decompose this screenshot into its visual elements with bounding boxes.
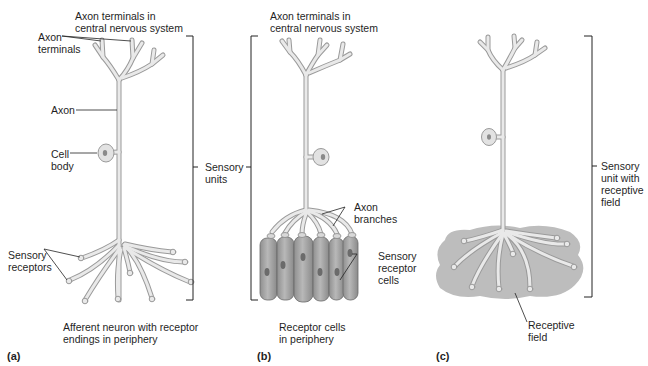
label-sensory-receptor-cells: Sensory receptor cells <box>378 250 417 286</box>
label-cns-terminals-a: Axon terminals in central nervous system <box>75 10 183 34</box>
panel-b-neuron <box>272 40 352 234</box>
sensory-unit-bracket-b <box>251 36 258 300</box>
label-sensory-receptors: Sensory receptors <box>8 249 52 273</box>
label-cns-terminals-b: Axon terminals in central nervous system <box>270 10 378 34</box>
label-cell-body: Cell body <box>51 148 74 172</box>
neuron-diagram <box>0 0 648 366</box>
sensory-unit-bracket-c <box>584 36 592 297</box>
panel-letter-a: (a) <box>7 350 20 362</box>
panel-a-cell-body <box>98 144 114 162</box>
panel-a-neuron <box>66 40 194 304</box>
label-axon-branches: Axon branches <box>354 201 397 225</box>
panel-c-cell-body <box>482 129 497 146</box>
label-sensory-unit-receptive-field: Sensory unit with receptive field <box>601 160 644 208</box>
label-sensory-units: Sensory units <box>205 161 244 185</box>
label-axon: Axon <box>51 104 75 116</box>
caption-b: Receptor cells in periphery <box>279 321 346 345</box>
panel-b-cell-body <box>313 149 329 166</box>
caption-a: Afferent neuron with receptor endings in… <box>63 321 198 345</box>
label-axon-terminals: Axon terminals <box>38 31 81 55</box>
label-receptive-field: Receptive field <box>528 319 575 343</box>
panel-letter-c: (c) <box>436 350 449 362</box>
receptor-cells <box>260 233 358 303</box>
panel-letter-b: (b) <box>257 350 271 362</box>
